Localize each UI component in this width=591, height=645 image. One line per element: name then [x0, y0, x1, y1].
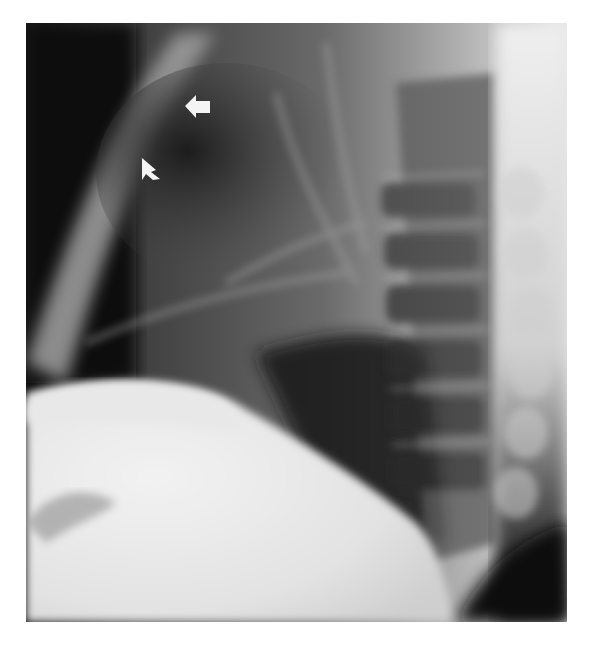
xray-image [26, 23, 567, 622]
xray-figure: Lateral chest radiograph with two white … [26, 23, 567, 622]
